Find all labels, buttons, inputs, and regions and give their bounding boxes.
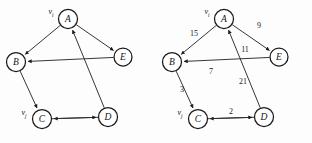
node-C[interactable]: C — [33, 110, 52, 129]
node-A[interactable]: A — [59, 10, 78, 29]
node-label-C: C — [39, 114, 46, 124]
edge-weight-D-C: 7 — [209, 67, 213, 76]
edge-weight-D-A: 11 — [241, 45, 249, 54]
edge-weight-A-E: 9 — [257, 21, 261, 30]
node-label-D: D — [260, 112, 268, 122]
node-label-B: B — [13, 57, 19, 67]
edge-E-to-B — [184, 57, 269, 61]
edge-weight-E-B: 21 — [239, 77, 247, 86]
node-label-E: E — [119, 52, 126, 62]
node-label-A: A — [220, 14, 227, 24]
unweighted-directed-graph: ABECDvivj — [7, 7, 133, 129]
edge-D-to-A — [73, 30, 105, 108]
node-E[interactable]: E — [270, 48, 288, 66]
edge-A-to-B — [181, 25, 216, 54]
vertex-tag-vi-A: vi — [204, 7, 210, 18]
graph-figure: ABECDvivj1591121372ABECDvivj — [0, 0, 312, 143]
node-C[interactable]: C — [189, 110, 208, 129]
node-label-A: A — [64, 14, 71, 24]
node-label-C: C — [195, 114, 202, 124]
edge-B-to-C — [20, 71, 37, 108]
graph-panels: ABECDvivj1591121372ABECDvivj — [7, 7, 289, 129]
edge-C-to-D — [52, 117, 96, 118]
node-B[interactable]: B — [163, 53, 182, 72]
edge-D-to-A — [229, 30, 261, 108]
edge-A-to-E — [232, 25, 269, 51]
edge-weight-C-D: 2 — [229, 107, 233, 116]
vertex-tag-vi-A: vi — [48, 7, 54, 18]
node-E[interactable]: E — [114, 48, 132, 66]
node-label-B: B — [169, 57, 175, 67]
vertex-tag-vj-C: vj — [177, 108, 183, 119]
edge-C-to-D — [208, 117, 252, 118]
edge-E-to-B — [28, 57, 113, 61]
node-D[interactable]: D — [255, 108, 274, 127]
edge-A-to-B — [25, 25, 60, 54]
edge-weight-A-B: 15 — [190, 29, 198, 38]
node-A[interactable]: A — [215, 10, 234, 29]
graph-canvas: ABECDvivj1591121372ABECDvivj — [0, 0, 312, 143]
edge-B-to-C — [176, 71, 193, 108]
edge-weight-B-C: 3 — [180, 85, 184, 94]
node-label-E: E — [275, 52, 282, 62]
node-B[interactable]: B — [7, 53, 26, 72]
weighted-directed-graph: 1591121372ABECDvivj — [163, 7, 289, 129]
vertex-tag-vj-C: vj — [21, 108, 27, 119]
edge-A-to-E — [76, 25, 113, 51]
node-label-D: D — [104, 112, 112, 122]
node-D[interactable]: D — [99, 108, 118, 127]
